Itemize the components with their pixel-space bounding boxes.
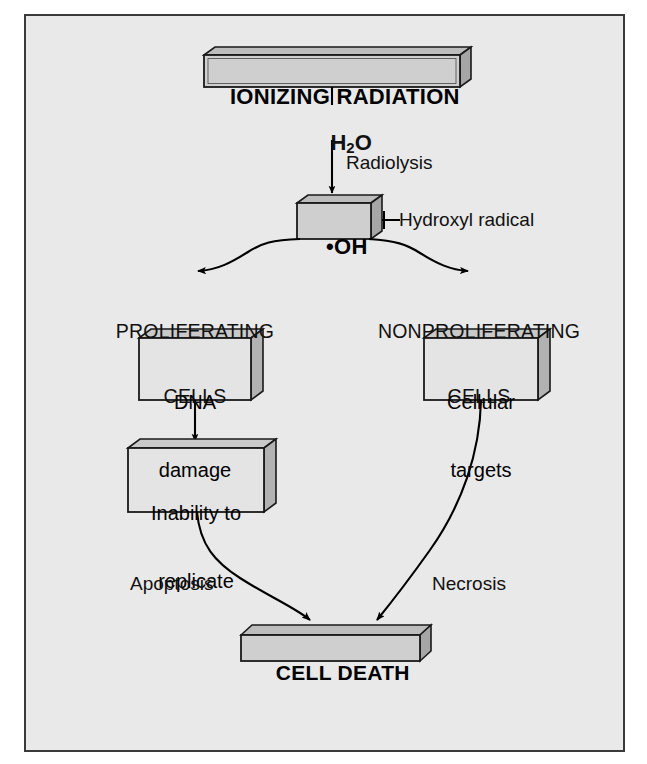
label-nonproliferating-line2: CELLS xyxy=(348,386,610,408)
label-proliferating-cells: PROLIFERATING CELLS xyxy=(70,277,320,452)
label-apoptosis: Apoptosis xyxy=(130,573,213,594)
label-water-o: O xyxy=(355,130,372,155)
label-water-h: H xyxy=(330,130,346,155)
edge-hydroxyl-to-proliferating xyxy=(198,239,300,271)
label-radiolysis: Radiolysis xyxy=(346,152,433,173)
label-necrosis: Necrosis xyxy=(432,573,506,594)
box-hydroxyl-radical xyxy=(297,195,382,239)
label-proliferating-line2: CELLS xyxy=(70,386,320,408)
box-cell-death xyxy=(241,625,431,661)
edge-inability-to-cell-death xyxy=(197,512,310,620)
figure-page: IONIZING RADIATION •OH DNA damage Inabil… xyxy=(0,0,647,764)
box-ionizing-radiation xyxy=(204,47,471,87)
edge-hydroxyl-to-nonproliferating xyxy=(369,239,468,271)
label-nonproliferating-line1: NONPROLIFERATING xyxy=(348,321,610,343)
label-hydroxyl-radical-callout: Hydroxyl radical xyxy=(399,209,534,230)
label-proliferating-line1: PROLIFERATING xyxy=(70,321,320,343)
label-nonproliferating-cells: NONPROLIFERATING CELLS xyxy=(348,277,610,452)
